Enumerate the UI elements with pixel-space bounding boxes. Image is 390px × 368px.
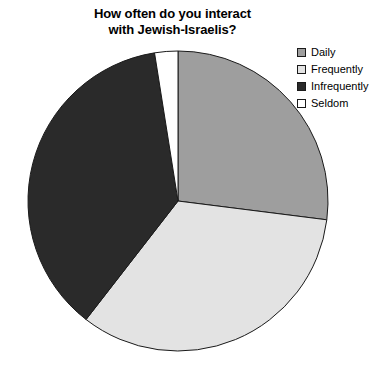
pie-chart-figure: How often do you interact with Jewish-Is… [0,0,390,368]
legend-label-daily: Daily [311,46,335,59]
legend-item-seldom[interactable]: Seldom [297,95,389,112]
chart-legend: Daily Frequently Infrequently Seldom [297,44,389,112]
legend-item-frequently[interactable]: Frequently [297,61,389,78]
legend-swatch-infrequently [297,82,306,91]
legend-label-frequently: Frequently [311,63,363,76]
legend-label-infrequently: Infrequently [311,80,368,93]
pie-slice-group [28,51,328,351]
legend-swatch-frequently [297,65,306,74]
legend-item-infrequently[interactable]: Infrequently [297,78,389,95]
legend-item-daily[interactable]: Daily [297,44,389,61]
legend-swatch-seldom [297,99,306,108]
legend-swatch-daily [297,48,306,57]
legend-label-seldom: Seldom [311,97,348,110]
